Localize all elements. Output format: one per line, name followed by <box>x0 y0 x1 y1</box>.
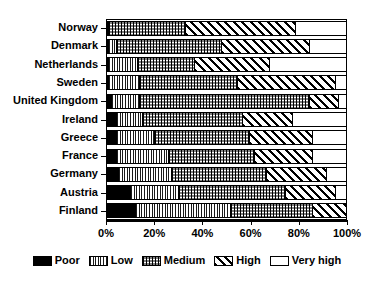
legend-swatch-high-icon <box>214 256 233 266</box>
legend-item-low: Low <box>89 255 133 266</box>
y-axis-label-netherlands: Netherlands <box>0 59 98 70</box>
bar-segment-high <box>195 58 269 71</box>
bar-segment-high <box>255 150 312 163</box>
bar-segment-medium <box>143 113 243 126</box>
legend-label: Low <box>111 255 133 266</box>
y-axis-tick <box>101 28 106 29</box>
bar-segment-very-high <box>336 76 346 89</box>
bar-segment-medium <box>140 95 310 108</box>
bar-segment-high <box>286 186 336 199</box>
bar-segment-low <box>117 113 143 126</box>
bar-track <box>106 167 347 182</box>
y-axis-tick <box>101 46 106 47</box>
x-axis-tick <box>202 220 203 225</box>
x-axis-ticklabel: 80% <box>276 227 322 239</box>
x-axis-ticklabel: 40% <box>179 227 225 239</box>
bar-row-sweden <box>106 75 347 90</box>
y-axis-label-ireland: Ireland <box>0 114 98 125</box>
legend-label: Medium <box>164 255 206 266</box>
y-axis-label-united-kingdom: United Kingdom <box>0 95 98 106</box>
bar-segment-medium <box>172 168 268 181</box>
y-axis-label-greece: Greece <box>0 132 98 143</box>
y-axis-label-finland: Finland <box>0 205 98 216</box>
x-axis-line <box>106 220 347 222</box>
y-axis-label-sweden: Sweden <box>0 77 98 88</box>
chart-legend: PoorLowMediumHighVery high <box>0 255 374 266</box>
bar-track <box>106 149 347 164</box>
y-axis-tick <box>101 211 106 212</box>
bar-segment-high <box>222 40 310 53</box>
bar-track <box>106 75 347 90</box>
bar-row-germany <box>106 167 347 182</box>
y-axis-tick <box>101 138 106 139</box>
bar-row-netherlands <box>106 57 347 72</box>
bar-segment-poor <box>107 186 131 199</box>
bar-segment-medium <box>117 40 222 53</box>
x-axis-ticklabel: 100% <box>324 227 370 239</box>
x-axis-tick <box>347 220 348 225</box>
legend-label: High <box>236 255 260 266</box>
bar-segment-high <box>243 113 293 126</box>
x-axis-tick <box>106 220 107 225</box>
x-axis-ticklabel: 0% <box>83 227 129 239</box>
y-axis-tick <box>101 120 106 121</box>
bar-segment-very-high <box>327 168 346 181</box>
bar-segment-high <box>267 168 327 181</box>
bar-segment-medium <box>231 204 312 217</box>
bar-segment-high <box>313 204 346 217</box>
y-axis-tick <box>101 174 106 175</box>
bar-track <box>106 57 347 72</box>
stacked-bar-chart: NorwayDenmarkNetherlandsSwedenUnited Kin… <box>0 0 374 281</box>
legend-label: Poor <box>55 255 80 266</box>
bar-row-austria <box>106 185 347 200</box>
bar-segment-low <box>109 76 140 89</box>
bar-row-denmark <box>106 39 347 54</box>
legend-item-high: High <box>214 255 260 266</box>
bar-segment-very-high <box>336 186 346 199</box>
bar-segment-very-high <box>293 113 346 126</box>
legend-swatch-very-high-icon <box>270 256 289 266</box>
bar-row-ireland <box>106 112 347 127</box>
y-axis-tick <box>101 156 106 157</box>
bar-segment-high <box>186 22 296 35</box>
bar-track <box>106 130 347 145</box>
bar-segment-poor <box>107 113 117 126</box>
x-axis-tick <box>299 220 300 225</box>
bar-track <box>106 39 347 54</box>
bar-segment-low <box>117 150 170 163</box>
bar-track <box>106 185 347 200</box>
y-axis-tick <box>101 193 106 194</box>
legend-swatch-medium-icon <box>142 256 161 266</box>
bar-row-finland <box>106 203 347 218</box>
bar-track <box>106 203 347 218</box>
bar-segment-medium <box>179 186 287 199</box>
x-axis-ticklabel: 60% <box>228 227 274 239</box>
x-axis-tick <box>154 220 155 225</box>
x-axis-ticklabel: 20% <box>131 227 177 239</box>
x-axis-tick <box>251 220 252 225</box>
bar-segment-medium <box>155 131 251 144</box>
bar-segment-medium <box>140 76 238 89</box>
y-axis-tick <box>101 65 106 66</box>
legend-swatch-low-icon <box>89 256 108 266</box>
legend-item-poor: Poor <box>33 255 80 266</box>
bar-row-greece <box>106 130 347 145</box>
legend-label: Very high <box>292 255 342 266</box>
bar-segment-high <box>238 76 336 89</box>
y-axis-tick <box>101 101 106 102</box>
bar-segment-medium <box>169 150 255 163</box>
bar-track <box>106 112 347 127</box>
bar-row-united-kingdom <box>106 94 347 109</box>
legend-swatch-poor-icon <box>33 256 52 266</box>
y-axis-label-norway: Norway <box>0 22 98 33</box>
bar-segment-very-high <box>339 95 346 108</box>
bar-segment-high <box>310 95 339 108</box>
bar-segment-poor <box>107 168 119 181</box>
bar-segment-very-high <box>313 150 346 163</box>
bar-track <box>106 94 347 109</box>
bar-segment-low <box>131 186 179 199</box>
bar-segment-low <box>112 95 141 108</box>
bar-segment-low <box>109 58 138 71</box>
y-axis-tick <box>101 83 106 84</box>
legend-item-very-high: Very high <box>270 255 342 266</box>
